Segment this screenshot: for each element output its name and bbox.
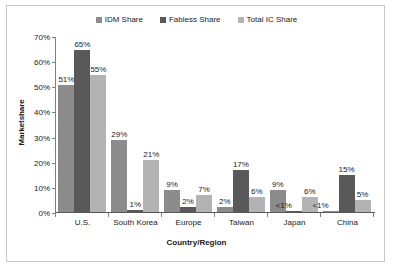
bar-slot: 55% [90, 37, 106, 212]
bar-slot: 21% [143, 37, 159, 212]
x-axis-title: Country/Region [7, 238, 386, 247]
bar-value-label: 29% [111, 130, 127, 139]
x-axis-tick-mark [320, 213, 321, 217]
bar-slot: 7% [196, 37, 212, 212]
x-axis-category-label: China [321, 218, 374, 227]
bar-slot: 6% [302, 37, 318, 212]
bar-value-label: 1% [129, 200, 141, 209]
bar-group-bars: <1%15%5% [320, 37, 373, 212]
bar[interactable] [233, 170, 249, 213]
x-axis-category-labels: U.S.South KoreaEuropeTaiwanJapanChina [56, 218, 374, 227]
bar[interactable] [58, 85, 74, 212]
bar-group-bars: 29%1%21% [109, 37, 162, 212]
x-axis-tick-mark [55, 213, 56, 217]
bar-group: 9%<1%6% [267, 37, 320, 212]
legend-label-total-ic-share: Total IC Share [247, 15, 298, 24]
bar-value-label: 17% [233, 160, 249, 169]
bar[interactable] [323, 211, 339, 212]
x-axis-tick-mark [214, 213, 215, 217]
bar[interactable] [111, 140, 127, 212]
legend-entry-fabless-share: Fabless Share [160, 15, 221, 24]
bar-slot: 9% [270, 37, 286, 212]
x-axis-tick-mark [267, 213, 268, 217]
bar[interactable] [74, 50, 90, 212]
bar-slot: 2% [180, 37, 196, 212]
bar-value-label: 55% [90, 65, 106, 74]
bar-value-label: 65% [74, 40, 90, 49]
bar-group: <1%15%5% [320, 37, 373, 212]
bar-slot: <1% [286, 37, 302, 212]
x-axis-tick-mark [108, 213, 109, 217]
y-axis-tick-mark [52, 87, 55, 88]
bar-value-label: 5% [357, 190, 369, 199]
legend-swatch-fabless-share [160, 17, 166, 23]
bar-value-label: 7% [198, 185, 210, 194]
bar-value-label: 15% [339, 165, 355, 174]
y-axis-tick-mark [52, 112, 55, 113]
bar-slot: 17% [233, 37, 249, 212]
x-axis-category-label: Europe [162, 218, 215, 227]
x-axis-line [55, 212, 375, 213]
bar[interactable] [217, 207, 233, 212]
bar-slot: 51% [58, 37, 74, 212]
bar-group-bars: 9%<1%6% [267, 37, 320, 212]
y-axis-tick-mark [52, 188, 55, 189]
bar[interactable] [249, 197, 265, 212]
y-axis-tick-mark [52, 138, 55, 139]
x-axis-category-label: Japan [268, 218, 321, 227]
bar-value-label: 6% [304, 187, 316, 196]
bar-slot: 6% [249, 37, 265, 212]
bar-slot: <1% [323, 37, 339, 212]
bar-slot: 5% [355, 37, 371, 212]
legend-swatch-total-ic-share [238, 17, 244, 23]
bar-value-label: 6% [251, 187, 263, 196]
y-axis-tick-mark [52, 62, 55, 63]
legend-entry-total-ic-share: Total IC Share [238, 15, 298, 24]
bar-group: 51%65%55% [56, 37, 109, 212]
x-axis-tick-mark [161, 213, 162, 217]
x-axis-category-label: U.S. [56, 218, 109, 227]
legend-entry-idm-share: IDM Share [96, 15, 143, 24]
bar-value-label: 2% [182, 197, 194, 206]
legend-label-idm-share: IDM Share [105, 15, 143, 24]
bar[interactable] [339, 175, 355, 213]
bar-slot: 9% [164, 37, 180, 212]
y-axis-tick-mark [52, 163, 55, 164]
bar[interactable] [164, 190, 180, 213]
bar-value-label: 2% [219, 197, 231, 206]
bar-value-label: 9% [166, 180, 178, 189]
bar-slot: 1% [127, 37, 143, 212]
x-axis-category-label: Taiwan [215, 218, 268, 227]
bar-group: 2%17%6% [214, 37, 267, 212]
y-axis-title: Marketshare [17, 83, 26, 163]
bar-value-label: 51% [58, 75, 74, 84]
bar-group-bars: 9%2%7% [162, 37, 215, 212]
chart-frame: IDM Share Fabless Share Total IC Share M… [6, 5, 385, 262]
bar[interactable] [127, 210, 143, 212]
y-axis-tick-mark [52, 37, 55, 38]
x-axis-category-label: South Korea [109, 218, 162, 227]
bar-value-label: 21% [143, 150, 159, 159]
legend-swatch-idm-share [96, 17, 102, 23]
bar-value-label: 9% [272, 180, 284, 189]
bar[interactable] [143, 160, 159, 213]
bar-value-label: <1% [312, 201, 328, 210]
x-axis-tick-mark [373, 213, 374, 217]
chart-legend: IDM Share Fabless Share Total IC Share [7, 15, 386, 24]
bar-value-label: <1% [276, 201, 292, 210]
bar[interactable] [196, 195, 212, 213]
plot-area: 0%10%20%30%40%50%60%70% 51%65%55%29%1%21… [55, 37, 373, 213]
bar[interactable] [355, 200, 371, 213]
bar[interactable] [286, 211, 302, 212]
bar[interactable] [180, 207, 196, 212]
bar-slot: 15% [339, 37, 355, 212]
bar-slot: 2% [217, 37, 233, 212]
bar[interactable] [90, 75, 106, 213]
legend-label-fabless-share: Fabless Share [169, 15, 221, 24]
bar-group: 29%1%21% [109, 37, 162, 212]
bar-slot: 29% [111, 37, 127, 212]
bar-group-bars: 51%65%55% [56, 37, 109, 212]
bar-slot: 65% [74, 37, 90, 212]
bar-groups: 51%65%55%29%1%21%9%2%7%2%17%6%9%<1%6%<1%… [56, 37, 373, 212]
bar-group-bars: 2%17%6% [214, 37, 267, 212]
